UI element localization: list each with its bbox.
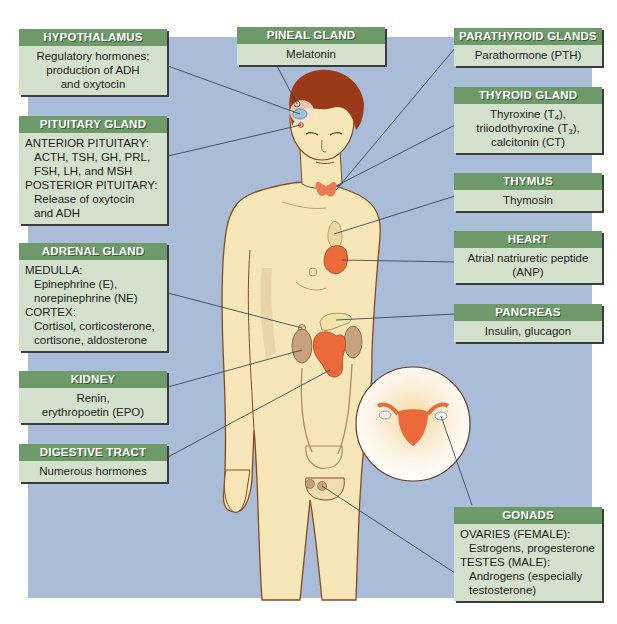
label-title: THYMUS — [454, 173, 602, 190]
label-text: Estrogens, progesterone — [460, 541, 596, 555]
label-text: triiodothyroxine (T3), — [460, 121, 596, 135]
label-title: PITUITARY GLAND — [19, 116, 167, 133]
label-text: Thyroxine (T4), — [460, 107, 596, 121]
leader-hypothalamus — [168, 66, 300, 114]
label-text: Melatonin — [243, 47, 379, 61]
label-title: HYPOTHALAMUS — [19, 29, 167, 46]
label-adrenal-gland: ADRENAL GLAND MEDULLA: Epinephrine (E), … — [19, 243, 167, 351]
label-parathyroid-glands: PARATHYROID GLANDS Parathormone (PTH) — [454, 28, 602, 66]
label-text: Renin, — [25, 391, 161, 405]
label-text: calcitonin (CT) — [460, 135, 596, 149]
label-text: Regulatory hormones; — [25, 49, 161, 63]
label-title: HEART — [454, 231, 602, 248]
label-title: GONADS — [454, 507, 602, 524]
label-kidney: KIDNEY Renin, erythropoetin (EPO) — [19, 371, 167, 423]
testis-left — [306, 480, 315, 489]
label-title: ADRENAL GLAND — [19, 243, 167, 260]
leader-thyroid — [336, 125, 455, 186]
label-text: norepinephrine (NE) — [25, 291, 161, 305]
label-title: PANCREAS — [454, 304, 602, 321]
label-title: PINEAL GLAND — [237, 27, 385, 44]
label-text: FSH, LH, and MSH — [25, 164, 161, 178]
label-text: erythropoetin (EPO) — [25, 405, 161, 419]
label-text: ANTERIOR PITUITARY: — [25, 136, 161, 150]
label-text: CORTEX: — [25, 305, 161, 319]
label-title: KIDNEY — [19, 371, 167, 388]
label-pancreas: PANCREAS Insulin, glucagon — [454, 304, 602, 342]
label-title: DIGESTIVE TRACT — [19, 444, 167, 461]
label-text: Insulin, glucagon — [460, 324, 596, 338]
label-hypothalamus: HYPOTHALAMUS Regulatory hormones; produc… — [19, 29, 167, 95]
ovary-left — [379, 411, 391, 419]
label-text: Androgens (especially — [460, 569, 596, 583]
label-digestive-tract: DIGESTIVE TRACT Numerous hormones — [19, 444, 167, 482]
label-text: Numerous hormones — [25, 464, 161, 478]
label-title: THYROID GLAND — [454, 87, 602, 104]
label-heart: HEART Atrial natriuretic peptide (ANP) — [454, 231, 602, 283]
label-text: and oxytocin — [25, 77, 161, 91]
kidney-right — [344, 326, 362, 358]
label-text: Epinephrine (E), — [25, 277, 161, 291]
label-text: OVARIES (FEMALE): — [460, 527, 596, 541]
label-gonads: GONADS OVARIES (FEMALE): Estrogens, prog… — [454, 507, 602, 601]
label-text: (ANP) — [460, 265, 596, 279]
label-text: Release of oxytocin — [25, 192, 161, 206]
label-text: ACTH, TSH, GH, PRL, — [25, 150, 161, 164]
female-reproductive-inset — [356, 367, 470, 481]
label-pineal-gland: PINEAL GLAND Melatonin — [237, 27, 385, 65]
label-text: testosterone) — [460, 583, 596, 597]
label-text: Thymosin — [460, 193, 596, 207]
label-text: production of ADH — [25, 63, 161, 77]
label-text: Cortisol, corticosterone, — [25, 319, 161, 333]
label-text: Atrial natriuretic peptide — [460, 251, 596, 265]
label-text: cortisone, aldosterone — [25, 333, 161, 347]
label-thyroid-gland: THYROID GLAND Thyroxine (T4), triiodothy… — [454, 87, 602, 153]
label-text: and ADH — [25, 206, 161, 220]
hand — [224, 470, 250, 512]
label-thymus: THYMUS Thymosin — [454, 173, 602, 211]
label-text: Parathormone (PTH) — [460, 48, 596, 62]
kidney-left — [292, 329, 312, 363]
label-pituitary-gland: PITUITARY GLAND ANTERIOR PITUITARY: ACTH… — [19, 116, 167, 224]
label-text: POSTERIOR PITUITARY: — [25, 178, 161, 192]
label-text: MEDULLA: — [25, 263, 161, 277]
label-title: PARATHYROID GLANDS — [454, 28, 602, 45]
label-text: TESTES (MALE): — [460, 555, 596, 569]
leader-pituitary — [168, 125, 301, 156]
thymus-gland — [328, 222, 342, 249]
